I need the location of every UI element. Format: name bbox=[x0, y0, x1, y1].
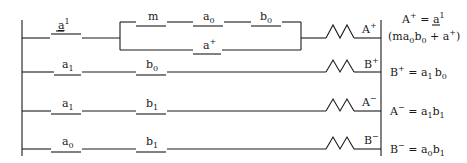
rung-2: a1 b0 B+ B+ = a1b0 bbox=[22, 56, 447, 81]
ladder-diagram: a1 m a0 b0 a+ A+ A+ = a1 (ma0b0 + a+) bbox=[0, 0, 467, 163]
equation-A-minus: A− = a1b1 bbox=[389, 103, 445, 120]
coil-label-A-plus: A+ bbox=[361, 21, 377, 36]
equation-B-minus: B− = a0b1 bbox=[390, 141, 445, 158]
rung-1: a1 m a0 b0 a+ A+ A+ = a1 (ma0b0 + a+) bbox=[22, 10, 460, 54]
contact-label-b1-r4: b1 bbox=[146, 135, 158, 150]
contact-label-a1-r3: a1 bbox=[62, 97, 74, 112]
coil-label-B-minus: B− bbox=[364, 132, 379, 147]
contact-label-a0: a0 bbox=[203, 10, 215, 25]
contact-label-a1-r2: a1 bbox=[62, 58, 74, 73]
equation-B-plus: B+ = a1b0 bbox=[390, 64, 447, 81]
coil-A-minus bbox=[326, 99, 354, 111]
contact-label-b0-r2: b0 bbox=[146, 58, 158, 73]
coil-B-plus bbox=[326, 60, 354, 72]
contact-label-b1-r3: b1 bbox=[146, 97, 158, 112]
coil-B-minus bbox=[326, 137, 354, 149]
coil-A-plus bbox=[326, 25, 354, 38]
contact-label-b0-top: b0 bbox=[260, 10, 272, 25]
equation-A-plus-line2: (ma0b0 + a+) bbox=[388, 28, 460, 45]
equation-A-plus-line1: A+ = a1 bbox=[401, 11, 445, 26]
coil-label-A-minus: A− bbox=[361, 94, 377, 109]
contact-label-m: m bbox=[148, 10, 159, 23]
coil-label-B-plus: B+ bbox=[364, 56, 379, 71]
contact-label-a1: a1 bbox=[58, 17, 70, 32]
contact-label-a-plus: a+ bbox=[203, 37, 216, 52]
contact-label-a0-r4: a0 bbox=[62, 135, 74, 150]
